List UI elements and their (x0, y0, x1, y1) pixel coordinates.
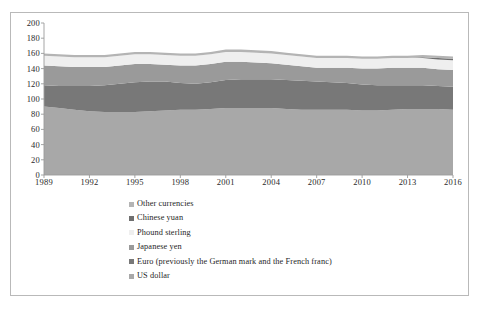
legend-swatch-icon (129, 259, 134, 264)
x-tick-label: 2016 (436, 178, 470, 187)
y-tick-label: 80 (14, 110, 40, 119)
area-series-svg (44, 23, 453, 175)
stacked-area-chart: 020406080100120140160180200 198919921995… (11, 13, 470, 193)
x-tick-label: 1989 (27, 178, 61, 187)
legend-item[interactable]: Japanese yen (129, 240, 459, 254)
plot-area (44, 23, 453, 175)
x-tick-label: 2010 (345, 178, 379, 187)
legend-swatch-icon (129, 274, 134, 279)
chart-figure-frame: 020406080100120140160180200 198919921995… (10, 12, 469, 296)
y-tick-label: 40 (14, 141, 40, 150)
legend-item-label: Euro (previously the German mark and the… (137, 258, 332, 266)
x-tick-label: 1998 (163, 178, 197, 187)
legend-item[interactable]: Other currencies (129, 197, 459, 211)
y-tick-label: 140 (14, 65, 40, 74)
y-tick-label: 100 (14, 95, 40, 104)
y-tick-label: 160 (14, 49, 40, 58)
legend-item-label: Chinese yuan (137, 214, 183, 222)
legend-item[interactable]: US dollar (129, 269, 459, 283)
legend-swatch-icon (129, 245, 134, 250)
x-tick-label: 2013 (391, 178, 425, 187)
legend-item[interactable]: Chinese yuan (129, 211, 459, 225)
legend-item-label: Japanese yen (137, 243, 182, 251)
y-tick-label: 180 (14, 34, 40, 43)
legend-swatch-icon (129, 216, 134, 221)
x-tick-label: 1995 (118, 178, 152, 187)
legend-item[interactable]: Phound sterling (129, 226, 459, 240)
x-tick-label: 2004 (254, 178, 288, 187)
y-tick-label: 120 (14, 80, 40, 89)
x-tick-label: 1992 (72, 178, 106, 187)
legend-item[interactable]: Euro (previously the German mark and the… (129, 255, 459, 269)
legend-item-label: US dollar (137, 272, 170, 280)
chart-legend: Other currenciesChinese yuanPhound sterl… (129, 197, 459, 283)
y-tick-label: 200 (14, 19, 40, 28)
x-axis: 1989199219951998200120042007201020132016 (44, 178, 453, 192)
y-tick-label: 20 (14, 156, 40, 165)
legend-item-label: Other currencies (137, 200, 194, 208)
legend-swatch-icon (129, 230, 134, 235)
legend-swatch-icon (129, 202, 134, 207)
y-tick-label: 60 (14, 125, 40, 134)
area-band (44, 107, 453, 175)
x-tick-label: 2007 (300, 178, 334, 187)
legend-item-label: Phound sterling (137, 229, 191, 237)
y-axis: 020406080100120140160180200 (11, 23, 40, 175)
x-tick-label: 2001 (209, 178, 243, 187)
